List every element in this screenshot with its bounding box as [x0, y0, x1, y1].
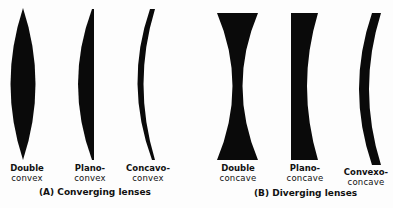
plano-concave-lens-shape — [291, 13, 318, 160]
label-concavo-convex: Concavo- convex — [118, 163, 178, 183]
label-double-concave: Double concave — [208, 163, 268, 183]
double-convex-lens-shape — [11, 8, 36, 160]
caption-converging: (A) Converging lenses — [39, 187, 151, 197]
caption-diverging: (B) Diverging lenses — [254, 188, 357, 198]
label-double-convex: Double convex — [0, 163, 57, 183]
double-concave-lens-shape — [217, 13, 258, 160]
plano-convex-lens-shape — [78, 9, 94, 160]
label-plano-concave: Plano- concave — [275, 163, 335, 183]
concavo-convex-lens-shape — [137, 9, 155, 160]
label-plano-convex: Plano- convex — [60, 163, 120, 183]
label-convexo-concave: Convexo- concave — [336, 167, 393, 187]
convexo-concave-lens-shape — [359, 13, 381, 165]
